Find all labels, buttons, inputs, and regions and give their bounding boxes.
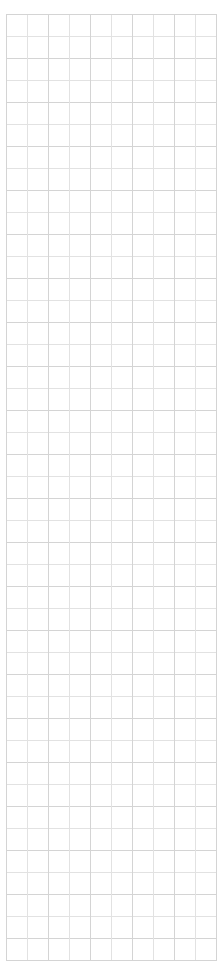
grid-cell[interactable] [196, 939, 217, 961]
grid-cell[interactable] [112, 807, 133, 829]
grid-cell[interactable] [91, 279, 112, 301]
grid-cell[interactable] [154, 37, 175, 59]
grid-cell[interactable] [154, 279, 175, 301]
grid-cell[interactable] [91, 433, 112, 455]
grid-cell[interactable] [175, 521, 196, 543]
grid-cell[interactable] [91, 411, 112, 433]
grid-cell[interactable] [28, 279, 49, 301]
grid-cell[interactable] [7, 235, 28, 257]
grid-cell[interactable] [28, 81, 49, 103]
grid-cell[interactable] [91, 499, 112, 521]
grid-cell[interactable] [112, 939, 133, 961]
grid-cell[interactable] [70, 543, 91, 565]
grid-cell[interactable] [133, 631, 154, 653]
grid-cell[interactable] [133, 433, 154, 455]
grid-cell[interactable] [112, 125, 133, 147]
grid-cell[interactable] [196, 103, 217, 125]
grid-cell[interactable] [49, 301, 70, 323]
grid-cell[interactable] [133, 411, 154, 433]
grid-cell[interactable] [112, 37, 133, 59]
grid-cell[interactable] [154, 235, 175, 257]
grid-cell[interactable] [49, 367, 70, 389]
grid-cell[interactable] [175, 675, 196, 697]
grid-cell[interactable] [196, 301, 217, 323]
grid-cell[interactable] [70, 103, 91, 125]
grid-cell[interactable] [49, 15, 70, 37]
grid-cell[interactable] [133, 741, 154, 763]
grid-cell[interactable] [133, 323, 154, 345]
grid-cell[interactable] [70, 719, 91, 741]
grid-cell[interactable] [91, 653, 112, 675]
grid-cell[interactable] [154, 499, 175, 521]
grid-cell[interactable] [49, 279, 70, 301]
grid-cell[interactable] [196, 895, 217, 917]
grid-cell[interactable] [133, 653, 154, 675]
grid-cell[interactable] [7, 631, 28, 653]
grid-cell[interactable] [175, 147, 196, 169]
grid-cell[interactable] [175, 455, 196, 477]
grid-cell[interactable] [112, 499, 133, 521]
grid-cell[interactable] [28, 499, 49, 521]
grid-cell[interactable] [28, 455, 49, 477]
grid-cell[interactable] [196, 411, 217, 433]
grid-cell[interactable] [91, 323, 112, 345]
grid-cell[interactable] [70, 191, 91, 213]
grid-cell[interactable] [175, 367, 196, 389]
grid-cell[interactable] [154, 653, 175, 675]
grid-cell[interactable] [112, 697, 133, 719]
grid-cell[interactable] [7, 807, 28, 829]
grid-cell[interactable] [154, 543, 175, 565]
grid-cell[interactable] [154, 565, 175, 587]
grid-cell[interactable] [175, 389, 196, 411]
grid-cell[interactable] [112, 169, 133, 191]
grid-cell[interactable] [196, 323, 217, 345]
grid-cell[interactable] [91, 213, 112, 235]
grid-cell[interactable] [91, 741, 112, 763]
grid-cell[interactable] [154, 59, 175, 81]
grid-cell[interactable] [175, 741, 196, 763]
grid-cell[interactable] [175, 37, 196, 59]
grid-cell[interactable] [112, 59, 133, 81]
grid-cell[interactable] [91, 873, 112, 895]
grid-cell[interactable] [70, 587, 91, 609]
grid-cell[interactable] [196, 763, 217, 785]
grid-cell[interactable] [154, 895, 175, 917]
grid-cell[interactable] [91, 851, 112, 873]
grid-cell[interactable] [7, 345, 28, 367]
grid-cell[interactable] [28, 785, 49, 807]
grid-cell[interactable] [49, 37, 70, 59]
grid-cell[interactable] [49, 323, 70, 345]
grid-cell[interactable] [28, 477, 49, 499]
grid-cell[interactable] [7, 653, 28, 675]
grid-cell[interactable] [196, 367, 217, 389]
grid-cell[interactable] [154, 873, 175, 895]
grid-cell[interactable] [28, 15, 49, 37]
grid-cell[interactable] [70, 389, 91, 411]
grid-cell[interactable] [175, 763, 196, 785]
grid-cell[interactable] [91, 807, 112, 829]
grid-cell[interactable] [49, 389, 70, 411]
grid-cell[interactable] [175, 323, 196, 345]
grid-cell[interactable] [28, 697, 49, 719]
grid-cell[interactable] [70, 169, 91, 191]
grid-cell[interactable] [70, 15, 91, 37]
grid-cell[interactable] [175, 587, 196, 609]
grid-cell[interactable] [28, 741, 49, 763]
grid-cell[interactable] [49, 59, 70, 81]
grid-cell[interactable] [49, 257, 70, 279]
grid-cell[interactable] [70, 851, 91, 873]
grid-cell[interactable] [175, 499, 196, 521]
grid-cell[interactable] [70, 411, 91, 433]
grid-cell[interactable] [7, 587, 28, 609]
grid-cell[interactable] [175, 477, 196, 499]
grid-cell[interactable] [133, 807, 154, 829]
grid-cell[interactable] [28, 675, 49, 697]
grid-cell[interactable] [133, 455, 154, 477]
grid-cell[interactable] [70, 455, 91, 477]
grid-cell[interactable] [196, 81, 217, 103]
grid-cell[interactable] [112, 455, 133, 477]
grid-cell[interactable] [154, 433, 175, 455]
grid-cell[interactable] [28, 433, 49, 455]
grid-cell[interactable] [91, 477, 112, 499]
grid-cell[interactable] [154, 323, 175, 345]
